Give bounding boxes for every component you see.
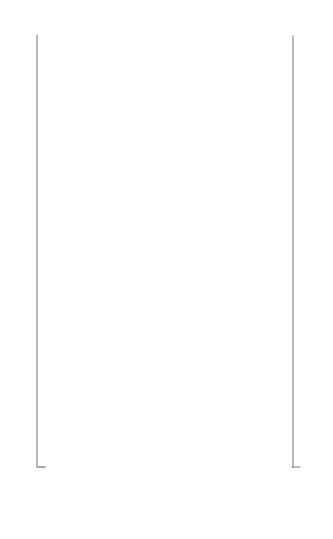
- top-axis-multiples: [36, 34, 45, 467]
- bar-chart-figure: [0, 0, 333, 539]
- bottom-axis-line: [292, 35, 293, 467]
- top-axis-line: [36, 34, 37, 466]
- bottom-axis-dollars: [292, 35, 302, 467]
- bottom-axis-origin-cap: [291, 466, 300, 467]
- plot-area: [46, 35, 292, 467]
- chart-canvas: [0, 0, 333, 539]
